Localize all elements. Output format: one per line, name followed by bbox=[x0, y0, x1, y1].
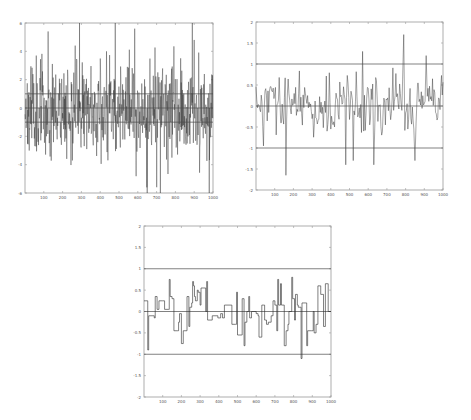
y-tick-label: 1.5 bbox=[247, 41, 254, 46]
y-tick-label: 2 bbox=[138, 224, 141, 229]
y-tick-label: -6 bbox=[18, 191, 22, 196]
x-tick-label: 200 bbox=[290, 192, 298, 197]
x-tick-label: 600 bbox=[252, 399, 260, 404]
x-tick-label: 500 bbox=[346, 192, 354, 197]
y-tick-label: 2 bbox=[19, 77, 22, 82]
chart1-plot: 1002003004005006007008009001000-6-4-2024… bbox=[0, 0, 235, 210]
y-tick-label: 2 bbox=[250, 20, 253, 25]
x-tick-label: 700 bbox=[271, 399, 279, 404]
y-tick-label: 6 bbox=[19, 21, 22, 26]
y-tick-label: 0 bbox=[250, 104, 253, 109]
x-tick-label: 400 bbox=[215, 399, 223, 404]
x-tick-label: 800 bbox=[290, 399, 298, 404]
x-tick-label: 1000 bbox=[326, 399, 337, 404]
chart-noisy-signal: 1002003004005006007008009001000-6-4-2024… bbox=[0, 0, 235, 210]
y-tick-label: 0.5 bbox=[135, 288, 142, 293]
y-tick-label: -0.5 bbox=[133, 330, 141, 335]
y-tick-label: -1 bbox=[137, 352, 141, 357]
y-tick-label: -2 bbox=[249, 188, 253, 193]
x-tick-label: 600 bbox=[134, 195, 142, 200]
series-step-line bbox=[144, 277, 331, 358]
x-tick-label: 100 bbox=[271, 192, 279, 197]
x-tick-label: 500 bbox=[115, 195, 123, 200]
x-tick-label: 1000 bbox=[208, 195, 219, 200]
x-tick-label: 300 bbox=[308, 192, 316, 197]
y-tick-label: 1 bbox=[250, 62, 253, 67]
x-tick-label: 200 bbox=[59, 195, 67, 200]
y-tick-label: -1.5 bbox=[245, 167, 253, 172]
x-tick-label: 900 bbox=[420, 192, 428, 197]
x-tick-label: 500 bbox=[234, 399, 242, 404]
chart-filtered-signal: 1002003004005006007008009001000-2-1.5-1-… bbox=[235, 0, 471, 210]
chart-step-estimate: 1002003004005006007008009001000-2-1.5-1-… bbox=[120, 210, 350, 420]
y-tick-label: -4 bbox=[18, 162, 22, 167]
x-tick-label: 900 bbox=[190, 195, 198, 200]
x-tick-label: 300 bbox=[78, 195, 86, 200]
chart2-plot: 1002003004005006007008009001000-2-1.5-1-… bbox=[235, 0, 471, 210]
y-tick-label: -0.5 bbox=[245, 125, 253, 130]
y-tick-label: 0.5 bbox=[247, 83, 254, 88]
x-tick-label: 700 bbox=[383, 192, 391, 197]
x-tick-label: 300 bbox=[196, 399, 204, 404]
x-tick-label: 1000 bbox=[438, 192, 449, 197]
y-tick-label: -1.5 bbox=[133, 373, 141, 378]
x-tick-label: 400 bbox=[327, 192, 335, 197]
x-tick-label: 800 bbox=[402, 192, 410, 197]
x-tick-label: 900 bbox=[308, 399, 316, 404]
x-tick-label: 400 bbox=[96, 195, 104, 200]
y-tick-label: 0 bbox=[19, 106, 22, 111]
y-tick-label: 1.5 bbox=[135, 245, 142, 250]
y-tick-label: 0 bbox=[138, 309, 141, 314]
y-tick-label: -2 bbox=[18, 134, 22, 139]
x-tick-label: 200 bbox=[178, 399, 186, 404]
x-tick-label: 100 bbox=[40, 195, 48, 200]
y-tick-label: -1 bbox=[249, 146, 253, 151]
x-tick-label: 700 bbox=[153, 195, 161, 200]
x-tick-label: 100 bbox=[159, 399, 167, 404]
y-tick-label: 4 bbox=[19, 49, 22, 54]
x-tick-label: 800 bbox=[172, 195, 180, 200]
x-tick-label: 600 bbox=[364, 192, 372, 197]
y-tick-label: 1 bbox=[138, 266, 141, 271]
series-line bbox=[256, 35, 443, 176]
y-tick-label: -2 bbox=[137, 395, 141, 400]
chart3-plot: 1002003004005006007008009001000-2-1.5-1-… bbox=[120, 210, 350, 420]
